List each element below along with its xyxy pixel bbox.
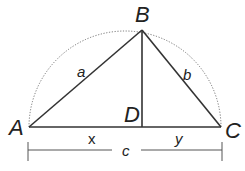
side-label-c: c [122, 142, 130, 159]
vertex-label-a: A [7, 115, 24, 140]
side-label-b: b [183, 66, 191, 83]
right-triangle-diagram: A B C D a b x y c [0, 0, 245, 171]
side-label-y: y [174, 130, 184, 147]
vertex-label-b: B [135, 2, 150, 27]
vertex-label-d: D [124, 102, 140, 127]
side-b-line [142, 30, 221, 127]
side-label-a: a [77, 63, 85, 80]
vertex-label-c: C [225, 118, 241, 143]
side-label-x: x [88, 130, 96, 147]
